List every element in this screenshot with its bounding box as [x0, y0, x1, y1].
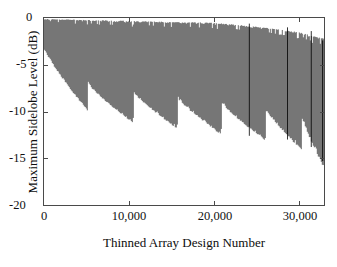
x-tick-label-20000: 20,000 [198, 210, 232, 223]
plot-area [43, 17, 325, 206]
chart-figure: 0 -5 -10 -15 -20 0 10,000 20,000 30,000 … [0, 0, 337, 267]
y-axis-title: Maximum Sidelobe Level (dB) [25, 17, 41, 207]
x-axis-title: Thinned Array Design Number [43, 235, 325, 251]
y-tick-label-m15: -15 [9, 152, 26, 165]
x-tick-label-10000: 10,000 [112, 210, 146, 223]
data-series-canvas [44, 18, 324, 205]
y-tick-label-m10: -10 [9, 105, 26, 118]
x-tick-label-30000: 30,000 [283, 210, 317, 223]
x-tick-label-0: 0 [41, 210, 47, 223]
y-tick-label-m20: -20 [9, 199, 26, 212]
